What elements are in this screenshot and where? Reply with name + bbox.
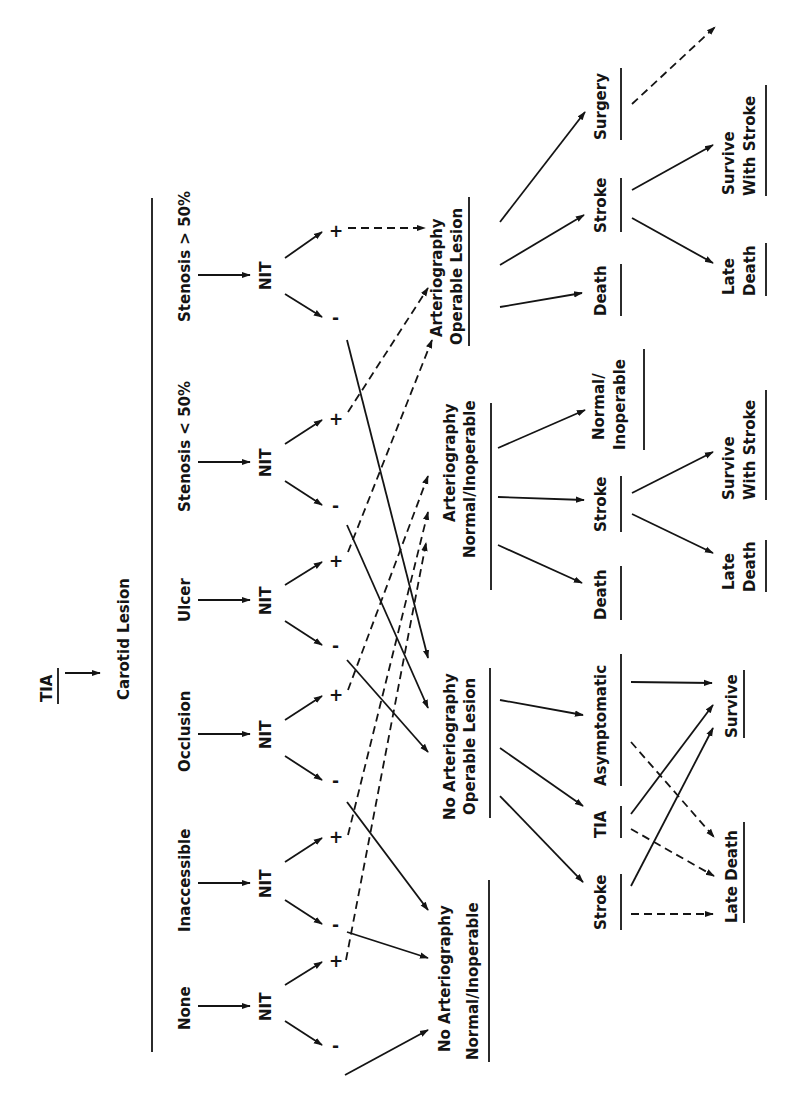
outcome-death-art-operable: Death: [592, 265, 610, 316]
outcome-survive-with-stroke-1a: Survive: [720, 131, 738, 195]
arrow-stroke2-to-late-death: [632, 514, 713, 553]
outcome-stroke-art-operable: Stroke: [592, 178, 610, 233]
outcome-stroke-noart: Stroke: [592, 875, 610, 930]
outcome-survive-with-stroke-2b: With Stroke: [741, 400, 759, 500]
node-arteriography-normal: Arteriography Normal/Inoperable: [441, 400, 491, 590]
neg-stenosis-lt50: -: [332, 496, 339, 516]
outcome-survive-with-stroke-1b: With Stroke: [741, 96, 759, 196]
pos-inaccessible: +: [329, 827, 343, 847]
pos-none: +: [329, 951, 343, 971]
art-operable-branches: [500, 112, 585, 307]
svg-text:Normal/Inoperable: Normal/Inoperable: [461, 400, 479, 558]
pos-occlusion: +: [329, 685, 343, 705]
outcome-stroke-art-normal: Stroke: [592, 477, 610, 532]
root-node-tia: TIA: [38, 668, 58, 704]
negative-result-paths: [345, 340, 428, 1075]
outcome-death-art-normal: Death: [592, 569, 610, 620]
pos-stenosis-lt50: +: [329, 409, 343, 429]
node-no-arteriography-normal: No Arteriography Normal/Inoperable: [436, 880, 489, 1062]
outcome-normal-inoperable-b: Inoperable: [611, 359, 629, 450]
outcome-survive-with-stroke-2a: Survive: [720, 436, 738, 500]
svg-text:Normal/Inoperable: Normal/Inoperable: [464, 902, 482, 1060]
category-ulcer: Ulcer: [176, 578, 194, 622]
nit-none: NIT: [257, 992, 275, 1021]
outcome-late-death-1b: Death: [741, 245, 759, 296]
outcome-surgery: Surgery: [592, 73, 610, 140]
category-occlusion: Occlusion: [176, 691, 194, 772]
svg-text:Operable Lesion: Operable Lesion: [448, 208, 466, 345]
category-stenosis-gt50: Stenosis > 50%: [176, 191, 194, 322]
neg-none: -: [332, 1036, 339, 1056]
decision-tree-diagram: TIA Carotid Lesion Stenosis > 50% Stenos…: [0, 0, 790, 1119]
neg-stenosis-gt50: -: [332, 308, 339, 328]
carotid-lesion-label: Carotid Lesion: [115, 578, 133, 700]
svg-text:Arteriography: Arteriography: [428, 218, 446, 337]
neg-occlusion: -: [332, 771, 339, 791]
arrow-stroke-to-survive: [632, 145, 713, 190]
outcome-asymptomatic: Asymptomatic: [592, 665, 610, 786]
outcome-late-death-2a: Late: [720, 553, 738, 590]
art-normal-branches: [498, 410, 585, 583]
arrow-stroke2-to-survive: [632, 452, 713, 493]
outcome-late-death-2b: Death: [741, 541, 759, 592]
svg-text:Operable Lesion: Operable Lesion: [461, 678, 479, 815]
nit-inaccessible: NIT: [257, 869, 275, 898]
pos-ulcer: +: [329, 551, 343, 571]
category-none: None: [176, 986, 194, 1030]
nit-stenosis-gt50: NIT: [257, 261, 275, 290]
neg-ulcer: -: [332, 636, 339, 656]
svg-text:Arteriography: Arteriography: [441, 403, 459, 522]
nit-result-signs: + - + - + - + - + - + -: [329, 221, 343, 1056]
surgery-continuation-arrow: [632, 27, 715, 104]
outcome-late-death-1a: Late: [720, 258, 738, 295]
outcome-normal-inoperable-a: Normal/: [590, 373, 608, 440]
outcome-survive: Survive: [723, 674, 741, 738]
final-outcome-arrows: [631, 682, 714, 914]
node-no-arteriography-operable: No Arteriography Operable Lesion: [441, 668, 490, 820]
svg-text:No Arteriography: No Arteriography: [441, 673, 459, 820]
nit-nodes: NIT NIT NIT NIT NIT NIT: [257, 261, 275, 1021]
nit-branch-arrows: [285, 232, 322, 1045]
positive-result-paths: [346, 228, 432, 960]
svg-text:No Arteriography: No Arteriography: [436, 905, 454, 1052]
nit-occlusion: NIT: [257, 720, 275, 749]
outcome-late-death-final: Late Death: [723, 830, 741, 923]
node-arteriography-operable: Arteriography Operable Lesion: [428, 197, 469, 346]
category-to-nit-arrows: [198, 275, 250, 1006]
arrow-stroke-to-late-death: [632, 218, 713, 263]
neg-inaccessible: -: [332, 915, 339, 935]
noart-operable-branches: [500, 700, 583, 882]
pos-stenosis-gt50: +: [329, 221, 343, 241]
category-stenosis-lt50: Stenosis < 50%: [176, 381, 194, 512]
nit-stenosis-lt50: NIT: [257, 448, 275, 477]
svg-text:TIA: TIA: [38, 674, 56, 702]
category-inaccessible: Inaccessible: [176, 829, 194, 932]
outcome-tia: TIA: [592, 810, 610, 838]
nit-ulcer: NIT: [257, 586, 275, 615]
